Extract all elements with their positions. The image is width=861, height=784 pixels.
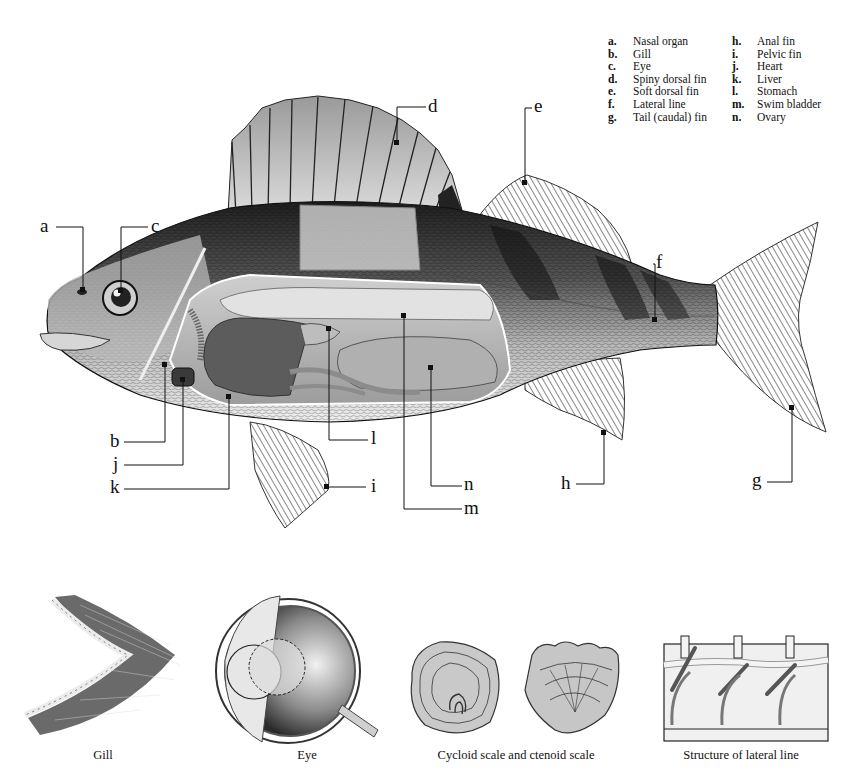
ctenoid-scale xyxy=(525,642,619,733)
callout-k-liver: k xyxy=(110,477,120,496)
legend-item: k.Liver xyxy=(732,73,821,86)
legend-item: m.Swim bladder xyxy=(732,98,821,111)
legend-item: e.Soft dorsal fin xyxy=(608,85,707,98)
callout-c-eye: c xyxy=(151,216,159,235)
swim-bladder xyxy=(220,288,493,321)
caption-scales: Cycloid scale and ctenoid scale xyxy=(438,748,595,763)
legend-item: n.Ovary xyxy=(732,111,821,124)
callout-d-spiny-dorsal-fin: d xyxy=(428,96,438,115)
caption-lateral-line: Structure of lateral line xyxy=(683,748,799,763)
legend-item: c.Eye xyxy=(608,60,707,73)
eye-illustration xyxy=(216,596,378,743)
callout-g-tail-fin: g xyxy=(752,470,762,489)
callout-j-heart: j xyxy=(113,454,118,473)
tail-caudal-fin xyxy=(710,222,826,432)
legend-item: b.Gill xyxy=(608,48,707,61)
legend-item: d.Spiny dorsal fin xyxy=(608,73,707,86)
legend-item: h.Anal fin xyxy=(732,35,821,48)
legend-item: l.Stomach xyxy=(732,85,821,98)
legend-right-column: h.Anal fin i.Pelvic fin j.Heart k.Liver … xyxy=(732,35,821,123)
gill-illustration xyxy=(25,595,180,735)
fish-anatomy-diagram: a.Nasal organ b.Gill c.Eye d.Spiny dorsa… xyxy=(0,0,861,784)
caption-eye: Eye xyxy=(297,748,316,763)
fish-eye xyxy=(103,281,137,315)
legend-item: i.Pelvic fin xyxy=(732,48,821,61)
legend-item: g.Tail (caudal) fin xyxy=(608,111,707,124)
spiny-dorsal-fin xyxy=(228,96,462,215)
legend-item: f.Lateral line xyxy=(608,98,707,111)
callout-a-nasal-organ: a xyxy=(40,216,48,235)
body-cavity xyxy=(170,275,510,405)
callout-l-stomach: l xyxy=(371,428,376,447)
callout-n-ovary: n xyxy=(464,474,474,493)
legend-left-column: a.Nasal organ b.Gill c.Eye d.Spiny dorsa… xyxy=(608,35,707,123)
callout-h-anal-fin: h xyxy=(561,473,571,492)
callout-m-swim-bladder: m xyxy=(464,498,479,517)
pelvic-fin xyxy=(250,422,329,528)
cycloid-scale xyxy=(411,642,499,733)
caption-gill: Gill xyxy=(93,748,112,763)
callout-i-pelvic-fin: i xyxy=(371,476,376,495)
callout-e-soft-dorsal-fin: e xyxy=(534,96,542,115)
legend-item: a.Nasal organ xyxy=(608,35,707,48)
lateral-line-structure xyxy=(664,636,828,741)
legend-item: j.Heart xyxy=(732,60,821,73)
callout-b-gill: b xyxy=(110,431,120,450)
callout-f-lateral-line: f xyxy=(656,252,662,271)
